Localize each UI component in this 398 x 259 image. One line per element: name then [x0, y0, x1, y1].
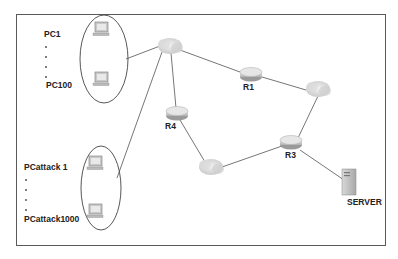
label-r4: R4 [165, 121, 176, 131]
link-r1-cloud-b [262, 77, 306, 90]
pc-icon [93, 22, 109, 36]
ellipsis-dot [45, 46, 47, 48]
label-pc1: PC1 [44, 29, 61, 39]
label-pc100: PC100 [46, 80, 72, 90]
links [117, 46, 344, 180]
cloud-icon [199, 159, 224, 175]
pc-icon [87, 156, 103, 170]
ellipsis-dot [45, 56, 47, 58]
ellipsis-dot [45, 76, 47, 78]
label-pcattack1: PCattack 1 [24, 162, 67, 172]
link-cloud-a-r4 [171, 53, 176, 108]
cloud-icon [306, 81, 331, 97]
label-r1: R1 [243, 82, 254, 92]
pc-icon [87, 204, 103, 218]
link-cloud-b-r3 [298, 96, 318, 138]
link-cloud-c-r3 [222, 146, 282, 167]
ellipsis-dot [25, 179, 27, 181]
ellipsis-dot [25, 189, 27, 191]
label-server: SERVER [347, 197, 382, 207]
router-icon [166, 107, 188, 121]
router-icon [280, 136, 302, 150]
pc-icon [93, 72, 109, 86]
link-cloud-a-r1 [180, 50, 240, 72]
link-r3-server [300, 150, 344, 180]
ellipsis-dot [25, 199, 27, 201]
label-pcattack1000: PCattack1000 [24, 214, 79, 224]
ellipsis-dot [45, 66, 47, 68]
router-icon [240, 68, 262, 82]
label-r3: R3 [285, 150, 296, 160]
server-icon [342, 169, 356, 195]
link-pcs-cloud-a [126, 46, 160, 59]
cloud-icon [158, 38, 183, 54]
link-attack-cloud-a [117, 52, 162, 178]
link-r4-cloud-c [180, 120, 205, 162]
ellipsis-dot [25, 209, 27, 211]
